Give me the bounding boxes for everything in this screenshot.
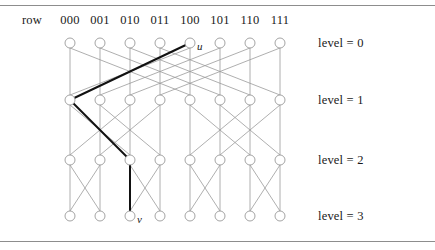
node-l3-101 [215,211,225,221]
level-label-3: level = 3 [318,210,364,223]
node-l0-011 [155,38,165,48]
node-l1-100 [185,95,195,105]
node-l0-100 [185,38,195,48]
node-l3-110 [245,211,255,221]
node-l1-001 [95,95,105,105]
node-letter-u: u [197,41,203,52]
node-l2-100 [185,155,195,165]
node-l1-110 [245,95,255,105]
node-l1-010 [125,95,135,105]
node-l0-110 [245,38,255,48]
node-l0-101 [215,38,225,48]
node-letter-v: v [137,214,142,225]
node-l2-101 [215,155,225,165]
figure-root: row 000001010011100101110111 level = 0le… [0,0,435,250]
butterfly-network-graphic [0,0,435,250]
edges-layer [70,48,280,211]
node-l1-000 [65,95,75,105]
row-label: row [22,14,42,27]
node-l0-000 [65,38,75,48]
node-l2-110 [245,155,255,165]
node-l2-010 [125,155,135,165]
node-l1-111 [275,95,285,105]
node-l3-001 [95,211,105,221]
node-l0-010 [125,38,135,48]
node-l3-000 [65,211,75,221]
node-l3-011 [155,211,165,221]
node-l3-100 [185,211,195,221]
column-header-111: 111 [262,14,298,27]
node-l1-011 [155,95,165,105]
level-label-2: level = 2 [318,154,364,167]
node-l2-111 [275,155,285,165]
level-label-1: level = 1 [318,94,364,107]
node-l2-000 [65,155,75,165]
node-l0-111 [275,38,285,48]
node-l3-111 [275,211,285,221]
node-l2-001 [95,155,105,165]
level-label-0: level = 0 [318,37,364,50]
node-l2-011 [155,155,165,165]
node-l0-001 [95,38,105,48]
node-l1-101 [215,95,225,105]
node-l3-010 [125,211,135,221]
